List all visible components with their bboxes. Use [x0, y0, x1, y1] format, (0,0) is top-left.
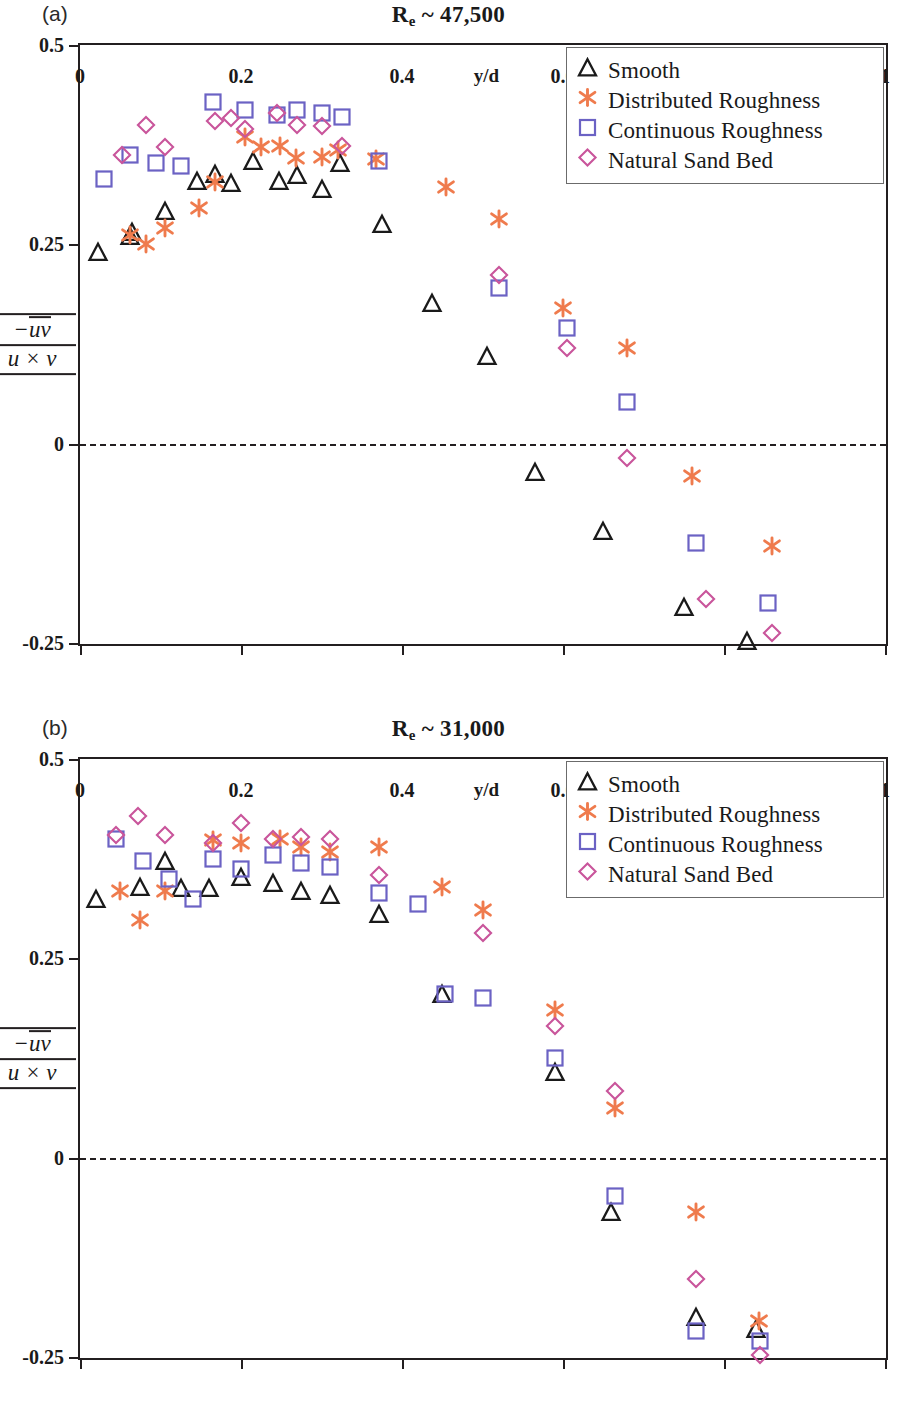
data-point-asterisk [189, 198, 210, 219]
data-point-asterisk [327, 140, 348, 161]
data-point-asterisk [235, 126, 256, 147]
legend-item-label: Smooth [608, 773, 680, 796]
y-axis-title: −uvu × v [0, 313, 76, 375]
data-point-asterisk [231, 832, 252, 853]
data-point-diamond [287, 114, 308, 135]
data-point-diamond [605, 1081, 626, 1102]
data-point-square [472, 988, 493, 1009]
data-point-square [758, 593, 779, 614]
x-axis-tick-label: 0.4 [390, 779, 415, 802]
data-point-asterisk [119, 224, 140, 245]
y-axis-title-denominator: u × v [0, 347, 76, 375]
x-axis-title: y/d [474, 65, 499, 87]
data-point-diamond [557, 337, 578, 358]
data-point-triangle [221, 172, 242, 193]
data-point-square [235, 100, 256, 121]
data-point-diamond [311, 116, 332, 137]
data-point-asterisk [685, 1201, 706, 1222]
data-point-triangle [231, 867, 252, 888]
x-axis-tick-label: 0 [75, 779, 85, 802]
data-point-square [605, 1185, 626, 1206]
data-point-asterisk [269, 828, 290, 849]
data-point-diamond [205, 110, 226, 131]
plot-area-a: -0.2500.250.5−uvu × v00.20.40.60.81y/d [78, 43, 888, 646]
data-point-square [434, 984, 455, 1005]
data-point-diamond [235, 118, 256, 139]
legend-item-smooth: Smooth [577, 55, 869, 85]
y-axis-tick-label: 0 [0, 432, 64, 455]
data-point-diamond [472, 922, 493, 943]
data-point-asterisk [472, 900, 493, 921]
x-axis-tick [80, 1358, 82, 1369]
data-point-triangle [421, 293, 442, 314]
diamond-icon [577, 861, 603, 887]
data-point-asterisk [130, 910, 151, 931]
data-point-triangle [243, 150, 264, 171]
data-point-square [106, 828, 127, 849]
data-point-triangle [593, 521, 614, 542]
legend-item-label: Smooth [608, 59, 680, 82]
data-point-triangle [154, 200, 175, 221]
data-point-asterisk [154, 218, 175, 239]
panel-a-title-re: R [392, 2, 409, 27]
data-point-square [685, 1321, 706, 1342]
data-point-diamond [488, 264, 509, 285]
data-point-square [488, 278, 509, 299]
data-point-diamond [331, 136, 352, 157]
data-point-square [750, 1331, 771, 1352]
x-axis-tick [563, 644, 565, 655]
y-axis-tick-label: -0.25 [0, 1346, 64, 1369]
data-point-asterisk [319, 842, 340, 863]
legend-item-label: Natural Sand Bed [608, 863, 773, 886]
data-point-asterisk [553, 298, 574, 319]
zero-reference-line [80, 1158, 886, 1160]
y-axis-tick [69, 1357, 80, 1359]
legend-item-natural-sand-bed: Natural Sand Bed [577, 145, 869, 175]
panel-a-title: Re ~ 47,500 [0, 2, 897, 28]
x-axis-tick [885, 1358, 887, 1369]
data-point-triangle [736, 630, 757, 651]
x-axis-tick [80, 644, 82, 655]
legend-item-label: Continuous Roughness [608, 833, 823, 856]
x-axis-tick-label: 0.2 [229, 65, 254, 88]
data-point-square [202, 92, 223, 113]
y-axis-tick-label: 0.25 [0, 947, 64, 970]
panel-a-title-sub: e [409, 13, 416, 29]
data-point-diamond [263, 828, 284, 849]
data-point-asterisk [366, 149, 387, 170]
data-point-diamond [685, 1268, 706, 1289]
data-point-triangle [263, 872, 284, 893]
data-point-triangle [432, 984, 453, 1005]
legend-item-smooth: Smooth [577, 769, 869, 799]
data-point-asterisk [291, 836, 312, 857]
data-point-triangle [186, 170, 207, 191]
data-point-diamond [106, 824, 127, 845]
data-point-square [291, 852, 312, 873]
data-point-diamond [544, 1016, 565, 1037]
data-point-asterisk [436, 176, 457, 197]
data-point-diamond [154, 137, 175, 158]
diamond-icon [577, 147, 603, 173]
legend-item-label: Natural Sand Bed [608, 149, 773, 172]
data-point-triangle [205, 164, 226, 185]
data-point-triangle [170, 878, 191, 899]
legend-item-label: Distributed Roughness [608, 803, 820, 826]
data-point-diamond [136, 114, 157, 135]
data-point-square [146, 153, 167, 174]
data-point-triangle [121, 222, 142, 243]
data-point-square [263, 844, 284, 865]
data-point-triangle [291, 880, 312, 901]
data-point-square [202, 848, 223, 869]
data-point-square [170, 156, 191, 177]
x-axis-tick [724, 1358, 726, 1369]
triangle-icon [577, 771, 603, 797]
y-axis-tick-label: -0.25 [0, 632, 64, 655]
legend: Smooth Distributed Roughness Continuous … [566, 761, 884, 898]
data-point-asterisk [617, 337, 638, 358]
data-point-square [311, 102, 332, 123]
y-axis-tick [69, 444, 80, 446]
y-axis-tick [69, 1158, 80, 1160]
data-point-triangle [330, 153, 351, 174]
data-point-asterisk [369, 836, 390, 857]
data-point-square [331, 106, 352, 127]
